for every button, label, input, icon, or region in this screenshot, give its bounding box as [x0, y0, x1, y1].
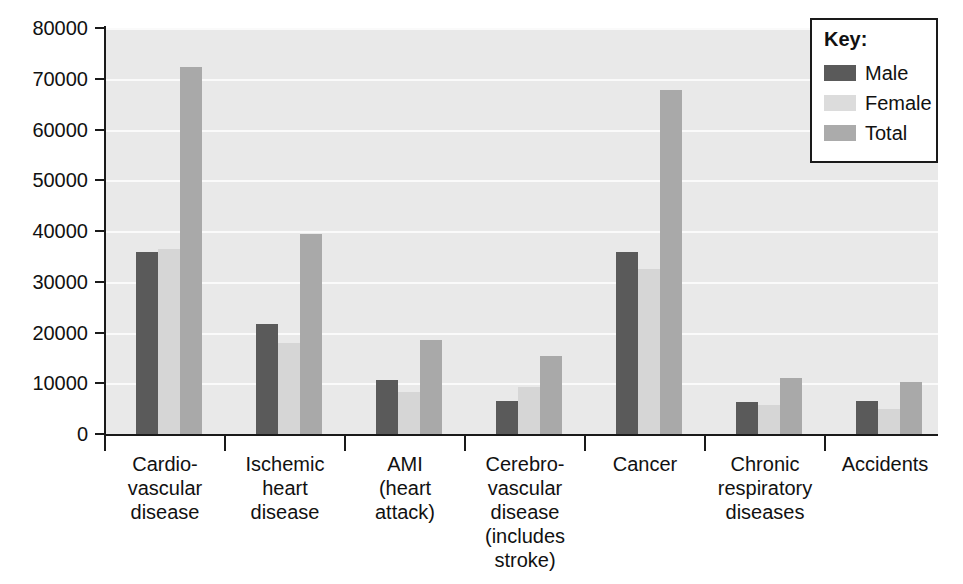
x-axis-tick-mark — [224, 436, 226, 451]
category-label-line: attack) — [336, 500, 474, 524]
bar-total — [900, 382, 922, 434]
bar-total — [540, 356, 562, 434]
bar-male — [616, 252, 638, 434]
bar-group — [105, 28, 225, 434]
y-axis-tick-label: 60000 — [0, 120, 88, 140]
category-label-line: disease — [216, 500, 354, 524]
category-label-line: (heart — [336, 476, 474, 500]
category-label-line: heart — [216, 476, 354, 500]
y-axis-tick-mark — [95, 179, 104, 181]
legend-entry: Total — [824, 118, 936, 148]
category-label-line: (includes — [456, 524, 594, 548]
legend-title: Key: — [824, 28, 936, 50]
y-axis-tick-mark — [95, 382, 104, 384]
x-axis-category-label: Cardio-vasculardisease — [96, 452, 234, 524]
category-label-line: Cardio- — [96, 452, 234, 476]
male-swatch — [824, 65, 856, 81]
x-axis-category-label: AMI(heartattack) — [336, 452, 474, 524]
x-axis-tick-mark — [824, 436, 826, 451]
bar-group — [465, 28, 585, 434]
category-label-line: stroke) — [456, 548, 594, 572]
legend-entry: Female — [824, 88, 936, 118]
y-axis-tick-label: 80000 — [0, 18, 88, 38]
bar-total — [180, 67, 202, 434]
x-axis-tick-mark — [584, 436, 586, 451]
legend: Key: MaleFemaleTotal — [810, 18, 938, 163]
bar-male — [736, 402, 758, 434]
bar-total — [780, 378, 802, 434]
bar-female — [638, 269, 660, 434]
bar-group — [705, 28, 825, 434]
x-axis-tick-mark — [464, 436, 466, 451]
bar-male — [136, 252, 158, 434]
bar-group — [585, 28, 705, 434]
x-axis-category-label: Cerebro-vasculardisease(includesstroke) — [456, 452, 594, 572]
category-label-line: diseases — [696, 500, 834, 524]
category-label-line: disease — [456, 500, 594, 524]
category-label-line: vascular — [456, 476, 594, 500]
y-axis-tick-label: 40000 — [0, 221, 88, 241]
y-axis-tick-mark — [95, 78, 104, 80]
x-axis-tick-mark — [704, 436, 706, 451]
x-axis-category-label: Accidents — [816, 452, 954, 476]
y-axis-tick-label: 20000 — [0, 323, 88, 343]
y-axis-tick-label: 70000 — [0, 69, 88, 89]
bar-male — [856, 401, 878, 434]
bar-male — [256, 324, 278, 434]
y-axis-tick-mark — [95, 230, 104, 232]
x-axis-category-label: Cancer — [576, 452, 714, 476]
legend-entry-label: Male — [865, 63, 908, 83]
bar-group — [225, 28, 345, 434]
y-axis-tick-label: 10000 — [0, 373, 88, 393]
y-axis-line — [104, 26, 106, 436]
category-label-line: AMI — [336, 452, 474, 476]
x-axis-category-label: Chronicrespiratorydiseases — [696, 452, 834, 524]
x-axis-line — [104, 434, 938, 436]
legend-entry: Male — [824, 58, 936, 88]
bar-female — [758, 405, 780, 434]
y-axis-tick-label: 0 — [0, 424, 88, 444]
y-axis-tick-mark — [95, 27, 104, 29]
y-axis-tick-mark — [95, 433, 104, 435]
x-axis-category-label: Ischemicheartdisease — [216, 452, 354, 524]
female-swatch — [824, 95, 856, 111]
x-axis-tick-mark — [344, 436, 346, 451]
category-label-line: respiratory — [696, 476, 834, 500]
category-label-line: Cancer — [576, 452, 714, 476]
y-axis-tick-mark — [95, 129, 104, 131]
y-axis-tick-label: 30000 — [0, 272, 88, 292]
category-label-line: vascular — [96, 476, 234, 500]
bar-female — [878, 409, 900, 434]
legend-entries: MaleFemaleTotal — [824, 58, 936, 148]
category-label-line: Ischemic — [216, 452, 354, 476]
bar-group — [345, 28, 465, 434]
legend-entry-label: Total — [865, 123, 907, 143]
bar-female — [518, 387, 540, 434]
bar-total — [420, 340, 442, 434]
x-axis-tick-mark — [104, 436, 106, 451]
category-label-line: disease — [96, 500, 234, 524]
bar-female — [158, 249, 180, 434]
bar-chart: 8000070000600005000040000300002000010000… — [0, 0, 963, 584]
legend-entry-label: Female — [865, 93, 932, 113]
bar-female — [398, 392, 420, 434]
category-label-line: Accidents — [816, 452, 954, 476]
y-axis-tick-label: 50000 — [0, 170, 88, 190]
y-axis-tick-mark — [95, 281, 104, 283]
total-swatch — [824, 125, 856, 141]
category-label-line: Chronic — [696, 452, 834, 476]
bar-male — [376, 380, 398, 434]
bar-total — [660, 90, 682, 434]
category-label-line: Cerebro- — [456, 452, 594, 476]
bar-female — [278, 343, 300, 434]
y-axis-tick-mark — [95, 332, 104, 334]
bar-total — [300, 234, 322, 434]
bar-male — [496, 401, 518, 434]
